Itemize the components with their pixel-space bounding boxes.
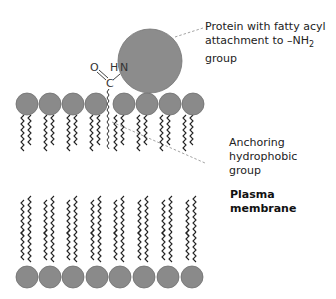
anchor-label-line3: group	[229, 164, 297, 178]
membrane-label-line1: Plasma	[230, 188, 296, 202]
hydrogen-atom-label: H	[110, 62, 118, 74]
protein-label-line2: attachment to –NH2 group	[205, 34, 336, 66]
bottom-leaflet-tails	[21, 196, 196, 262]
anchor-label-line2: hydrophobic	[229, 150, 297, 164]
carbon-atom-label: C	[106, 78, 114, 90]
oxygen-atom-label: O	[90, 62, 99, 74]
top-leaflet-heads	[16, 93, 204, 115]
anchor-label: Anchoring hydrophobic group	[229, 136, 297, 178]
nitrogen-atom-label: N	[120, 62, 128, 74]
anchor-label-line1: Anchoring	[229, 136, 297, 150]
membrane-label: Plasma membrane	[230, 188, 296, 216]
fatty-acyl-chain	[107, 89, 109, 149]
membrane-label-line2: membrane	[230, 202, 296, 216]
protein-label: Protein with fatty acyl attachment to –N…	[205, 20, 336, 66]
bottom-leaflet-heads	[16, 266, 203, 288]
protein-label-line1: Protein with fatty acyl	[205, 20, 336, 34]
